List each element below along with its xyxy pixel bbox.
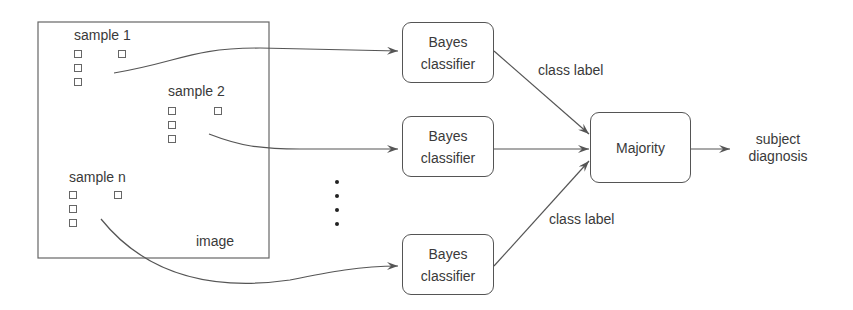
sample-square	[114, 191, 122, 199]
sample-square	[168, 135, 176, 143]
sample-square	[74, 64, 82, 72]
image-label: image	[196, 233, 234, 249]
sample-square	[69, 205, 77, 213]
bayes-classifier-1: Bayes classifier	[402, 22, 494, 83]
ellipsis-dot	[335, 222, 339, 226]
sample-square	[69, 219, 77, 227]
sample-square	[118, 50, 126, 58]
output-line-2: diagnosis	[738, 148, 818, 165]
sample-2-label: sample 2	[168, 83, 225, 99]
ellipsis-dot	[335, 194, 339, 198]
arrow-sample1-to-classifier1	[114, 48, 398, 73]
edge-label-class-label-top: class label	[538, 62, 603, 78]
classifier-subtitle: classifier	[421, 265, 475, 287]
classifier-subtitle: classifier	[421, 147, 475, 169]
classifier-title: Bayes	[429, 31, 468, 53]
output-line-1: subject	[738, 131, 818, 148]
sample-square	[74, 78, 82, 86]
sample-square	[69, 191, 77, 199]
ellipsis-dot	[335, 208, 339, 212]
output-label: subject diagnosis	[738, 131, 818, 165]
sample-square	[168, 107, 176, 115]
sample-square	[168, 121, 176, 129]
edge-label-class-label-bottom: class label	[549, 211, 614, 227]
majority-label: Majority	[616, 137, 665, 159]
bayes-classifier-2: Bayes classifier	[402, 116, 494, 177]
classifier-subtitle: classifier	[421, 53, 475, 75]
majority-box: Majority	[590, 112, 691, 183]
arrow-samplen-to-classifiern	[101, 219, 398, 283]
bayes-classifier-n: Bayes classifier	[402, 234, 494, 295]
arrow-sample2-to-classifier2	[209, 134, 398, 149]
ellipsis-dot	[335, 180, 339, 184]
sample-1-label: sample 1	[74, 27, 131, 43]
sample-n-label: sample n	[69, 169, 126, 185]
classifier-title: Bayes	[429, 243, 468, 265]
classifier-title: Bayes	[429, 125, 468, 147]
sample-square	[214, 107, 222, 115]
sample-square	[74, 50, 82, 58]
